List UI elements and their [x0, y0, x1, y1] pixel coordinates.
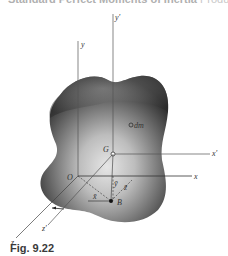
point-b	[109, 199, 113, 203]
centroid-label: G	[103, 145, 109, 154]
mass-element-label: dm	[134, 121, 144, 130]
origin-label: O	[67, 173, 73, 182]
rigid-body-figure: y′ y x′ x z z′ O G dm B ȳ z̄ x̄	[0, 0, 228, 256]
z-prime-label: z′	[41, 224, 47, 233]
y-label: y	[80, 40, 85, 49]
x-label: x	[193, 172, 198, 181]
x-bar-label: x̄	[92, 192, 97, 201]
point-b-label: B	[117, 198, 122, 207]
y-prime-label: y′	[114, 13, 121, 22]
x-prime-label: x′	[211, 149, 218, 158]
y-bar-label: ȳ	[113, 179, 118, 188]
figure-caption: Fig. 9.22	[10, 242, 54, 254]
